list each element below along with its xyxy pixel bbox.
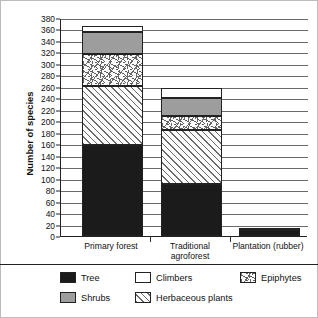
bar-stack (161, 18, 222, 236)
x-category-label-line1: Plantation (rubber) (218, 241, 318, 251)
legend-swatch (60, 292, 76, 303)
y-axis-labels: 3803603403203002802602402202001801601401… (0, 0, 60, 260)
legend-item[interactable]: Herbaceous plants (135, 292, 233, 303)
y-tick-label: 120 (41, 164, 55, 172)
legend-label: Shrubs (81, 293, 110, 303)
bar-stack (239, 18, 300, 236)
bar-segment-fill (83, 27, 142, 31)
legend-item[interactable]: Climbers (135, 272, 192, 283)
y-tick-label: 60 (46, 198, 55, 206)
y-tick-label: 140 (41, 152, 55, 160)
y-tick-label: 100 (41, 175, 55, 183)
y-tick-label: 160 (41, 141, 55, 149)
y-tick-label: 240 (41, 95, 55, 103)
y-tick-label: 180 (41, 130, 55, 138)
bar-segment-fill (83, 87, 142, 145)
x-axis-separator-tick (230, 237, 231, 242)
legend-label: Herbaceous plants (156, 293, 233, 303)
bar-segment (161, 116, 222, 130)
legend-row-1: TreeClimbersEpiphytes (0, 272, 318, 289)
bar-segment (161, 98, 222, 115)
bar-segment-fill (83, 55, 142, 85)
x-axis-separator-tick (150, 237, 151, 242)
y-tick-label: 380 (41, 15, 55, 23)
legend-item[interactable]: Tree (60, 272, 100, 283)
bar-segment (161, 184, 222, 236)
bar-segment-fill (162, 89, 221, 97)
legend-swatch (240, 272, 256, 283)
bar-segment (82, 54, 143, 86)
legend: TreeClimbersEpiphytes ShrubsHerbaceous p… (0, 264, 318, 318)
y-tick-label: 360 (41, 26, 55, 34)
legend-swatch-fill (136, 273, 150, 282)
bar-stack (82, 18, 143, 236)
legend-label: Tree (81, 273, 100, 283)
bar-segment-fill (240, 231, 299, 235)
bar-segment (239, 228, 300, 230)
bar-segment-fill (162, 185, 221, 235)
legend-label: Climbers (156, 273, 192, 283)
legend-swatch (60, 272, 76, 283)
bar-segment-fill (162, 117, 221, 129)
x-category-label: Plantation (rubber) (218, 241, 318, 251)
bar-segment (161, 130, 222, 185)
legend-swatch-fill (61, 293, 75, 302)
y-tick-label: 340 (41, 38, 55, 46)
y-tick-label: 20 (46, 221, 55, 229)
y-tick-label: 320 (41, 49, 55, 57)
y-tick-label: 220 (41, 107, 55, 115)
y-tick-label: 40 (46, 210, 55, 218)
bar-segment (82, 32, 143, 53)
bar-segment (239, 230, 300, 236)
y-tick-label: 300 (41, 61, 55, 69)
legend-label: Epiphytes (261, 273, 301, 283)
bar-segment (82, 145, 143, 236)
bar-segment (82, 86, 143, 146)
bar-segment-fill (83, 146, 142, 235)
legend-swatch-fill (61, 273, 75, 282)
legend-swatch (135, 272, 151, 283)
bar-segment-fill (83, 33, 142, 52)
legend-row-2: ShrubsHerbaceous plants (0, 292, 318, 309)
legend-item[interactable]: Epiphytes (240, 272, 301, 283)
y-tick-label: 80 (46, 187, 55, 195)
legend-swatch (135, 292, 151, 303)
bar-segment-fill (162, 131, 221, 184)
x-category-label-line2: agroforest (140, 251, 240, 261)
bar-segment-fill (162, 99, 221, 114)
legend-item[interactable]: Shrubs (60, 292, 110, 303)
y-tick-label: 0 (50, 233, 55, 241)
legend-swatch-fill (241, 273, 255, 282)
y-tick-label: 280 (41, 72, 55, 80)
bar-segment (82, 26, 143, 32)
stacked-bar-chart-figure: Number of species 3803603403203002802602… (0, 0, 318, 318)
legend-swatch-fill (136, 293, 150, 302)
bar-segment (161, 88, 222, 98)
y-tick-label: 200 (41, 118, 55, 126)
plot-area (60, 19, 307, 237)
y-tick-label: 260 (41, 84, 55, 92)
